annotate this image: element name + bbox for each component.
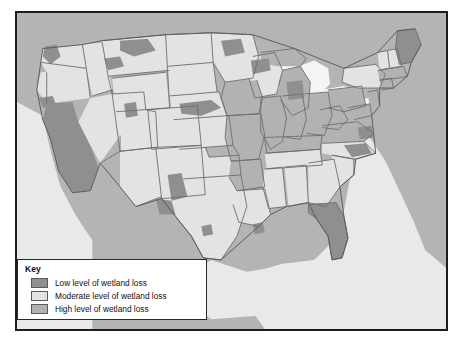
patch-louisiana-delta <box>253 222 265 234</box>
patch-texas-coast <box>201 224 213 236</box>
legend-label-low: Low level of wetland loss <box>55 278 147 288</box>
legend-label-high: High level of wetland loss <box>55 304 149 314</box>
state-kansas <box>176 116 233 150</box>
state-missouri <box>225 114 265 161</box>
patch-michigan-lower <box>286 80 304 100</box>
map-legend: Key Low level of wetland loss Moderate l… <box>17 259 207 320</box>
legend-item-low: Low level of wetland loss <box>31 276 200 289</box>
legend-label-moderate: Moderate level of wetland loss <box>55 291 167 301</box>
legend-item-moderate: Moderate level of wetland loss <box>31 289 200 302</box>
map-figure: Key Low level of wetland loss Moderate l… <box>0 0 465 346</box>
legend-item-high: High level of wetland loss <box>31 302 200 315</box>
state-alabama <box>285 165 309 206</box>
state-north-dakota <box>166 33 214 67</box>
patch-utah-lake <box>124 102 138 118</box>
state-south-dakota <box>168 62 218 96</box>
legend-title: Key <box>25 264 200 274</box>
legend-swatch-moderate <box>31 291 48 301</box>
legend-swatch-low <box>31 278 48 288</box>
legend-swatch-high <box>31 304 48 314</box>
